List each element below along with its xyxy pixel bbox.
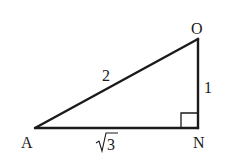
vertex-label-n: N xyxy=(193,134,205,151)
side-label-an: 3 xyxy=(96,133,118,153)
side-ao xyxy=(35,39,198,128)
triangle-diagram: O A N 2 1 3 xyxy=(0,0,231,156)
vertex-label-a: A xyxy=(21,134,33,151)
right-angle-marker xyxy=(181,113,198,128)
side-label-an-radicand: 3 xyxy=(107,136,115,153)
vertex-label-o: O xyxy=(191,20,203,37)
side-label-on: 1 xyxy=(204,79,212,96)
side-label-ao: 2 xyxy=(102,67,110,84)
